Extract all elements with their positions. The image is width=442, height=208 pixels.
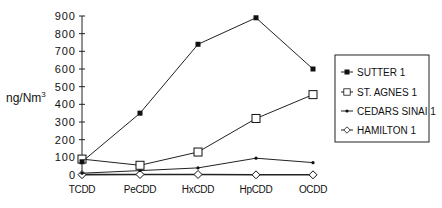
legend-label: CEDARS SINAI 1: [357, 106, 436, 117]
legend: SUTTER 1ST. AGNES 1CEDARS SINAI 1HAMILTO…: [335, 55, 436, 142]
filled-square-marker-icon: [138, 111, 143, 116]
filled-square-marker-icon: [345, 70, 350, 75]
open-square-marker-icon: [194, 148, 202, 156]
legend-label: HAMILTON 1: [357, 125, 417, 136]
open-square-marker-icon: [344, 89, 350, 95]
y-tick-label: 1 0 0: [55, 151, 75, 163]
legend-label: SUTTER 1: [357, 67, 406, 78]
series-layer: [78, 15, 317, 179]
dot-marker-icon: [196, 166, 199, 169]
dot-marker-icon: [311, 161, 314, 164]
series-sutter-1: [80, 15, 316, 164]
x-tick-label: HpCDD: [240, 184, 273, 195]
y-tick-label: 4 0 0: [55, 98, 75, 110]
y-tick-label: 3 0 0: [55, 116, 75, 128]
y-tick-label: 9 0 0: [55, 10, 75, 22]
filled-square-marker-icon: [254, 15, 259, 20]
legend-label: ST. AGNES 1: [357, 87, 417, 98]
series-st-agnes-1: [78, 91, 317, 170]
dot-marker-icon: [80, 172, 83, 175]
y-axis-label: ng/Nm3: [6, 90, 46, 105]
open-square-marker-icon: [309, 91, 317, 99]
dot-marker-icon: [345, 109, 348, 112]
x-tick-label: HxCDD: [182, 184, 214, 195]
legend-marker: [344, 89, 350, 95]
filled-square-marker-icon: [196, 42, 201, 47]
y-tick-label: 8 0 0: [55, 28, 75, 40]
y-tick-label: 5 0 0: [55, 81, 75, 93]
y-tick-label: 0: [69, 169, 75, 181]
y-axis-title: ng/Nm3: [6, 90, 46, 105]
filled-square-marker-icon: [80, 159, 85, 164]
dot-marker-icon: [254, 157, 257, 160]
x-tick-label: OCDD: [299, 184, 327, 195]
line-chart: 01 0 02 0 03 0 04 0 05 0 06 0 07 0 08 0 …: [0, 0, 442, 208]
x-tick-label: PeCDD: [124, 184, 156, 195]
y-tick-label: 7 0 0: [55, 45, 75, 57]
open-square-marker-icon: [252, 114, 260, 122]
open-square-marker-icon: [136, 161, 144, 169]
open-diamond-marker-icon: [252, 171, 260, 179]
y-tick-label: 2 0 0: [55, 134, 75, 146]
series-line: [82, 18, 313, 162]
x-axis: TCDDPeCDDHxCDDHpCDDOCDD: [69, 184, 327, 195]
x-tick-label: TCDD: [69, 184, 96, 195]
filled-square-marker-icon: [311, 67, 316, 72]
open-diamond-marker-icon: [194, 170, 202, 178]
y-tick-label: 6 0 0: [55, 63, 75, 75]
open-diamond-marker-icon: [309, 171, 317, 179]
